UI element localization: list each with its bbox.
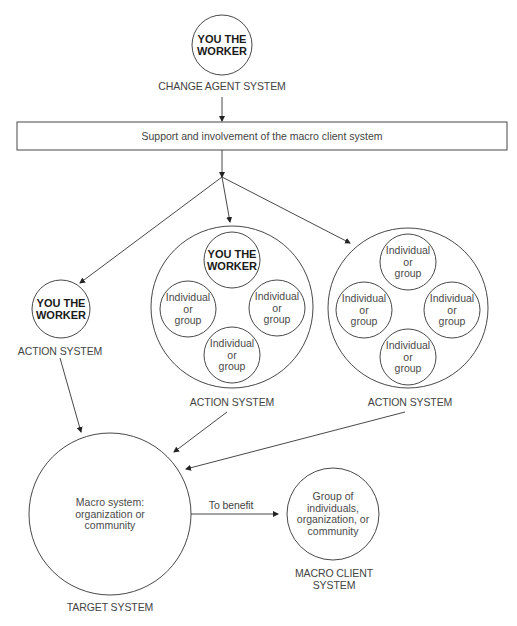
client-line: organization, or xyxy=(297,514,369,526)
arrow-action-3-to-target xyxy=(186,412,405,469)
target-line: Macro system: xyxy=(75,497,144,509)
member-line: Individual xyxy=(430,293,474,305)
arrow-action-2-to-target xyxy=(174,412,227,452)
member-line: group xyxy=(255,314,299,326)
action-system-2-label: ACTION SYSTEM xyxy=(190,396,274,408)
change-agent-line-1: YOU THE xyxy=(197,33,247,45)
action-system-1-label: ACTION SYSTEM xyxy=(18,345,102,357)
member-line: WORKER xyxy=(36,309,86,321)
action-system-2-member-top-text: YOU THE WORKER xyxy=(207,248,257,272)
action-system-3-member-right-text: Individual or group xyxy=(430,293,474,328)
member-line: group xyxy=(386,363,430,375)
member-line: group xyxy=(210,361,254,373)
member-line: Individual xyxy=(255,291,299,303)
action-system-3-member-bottom-text: Individual or group xyxy=(386,340,430,375)
change-agent-label: CHANGE AGENT SYSTEM xyxy=(158,80,285,92)
action-system-2-member-right-text: Individual or group xyxy=(255,291,299,326)
member-line: YOU THE xyxy=(36,297,86,309)
member-line: YOU THE xyxy=(207,248,257,260)
action-system-3-label: ACTION SYSTEM xyxy=(368,396,452,408)
member-line: Individual xyxy=(386,340,430,352)
client-line: Group of xyxy=(297,491,369,503)
client-label-line: MACRO CLIENT xyxy=(295,567,373,579)
action-system-1-member: YOU THE WORKER xyxy=(36,297,86,321)
macro-client-label: MACRO CLIENT SYSTEM xyxy=(295,567,373,591)
macro-client-text: Group of individuals, organization, or c… xyxy=(297,491,369,537)
member-line: Individual xyxy=(342,293,386,305)
target-line: community xyxy=(75,520,144,532)
action-system-2-member-left-text: Individual or group xyxy=(166,292,210,327)
arrow-branch-to-action-1 xyxy=(80,177,222,283)
client-label-line: SYSTEM xyxy=(295,579,373,591)
member-line: group xyxy=(342,316,386,328)
target-system-label: TARGET SYSTEM xyxy=(67,601,153,613)
member-line: Individual xyxy=(210,338,254,350)
change-agent-text: YOU THE WORKER xyxy=(197,33,247,57)
client-line: community xyxy=(297,526,369,538)
support-box-text: Support and involvement of the macro cli… xyxy=(17,122,507,150)
benefit-arrow-label: To benefit xyxy=(209,499,254,511)
action-system-3-member-top-text: Individual or group xyxy=(386,245,430,280)
target-system-text: Macro system: organization or community xyxy=(75,497,144,532)
member-line: Individual xyxy=(386,245,430,257)
member-line: group xyxy=(430,316,474,328)
action-system-3-member-left-text: Individual or group xyxy=(342,293,386,328)
member-line: group xyxy=(386,268,430,280)
member-line: group xyxy=(166,315,210,327)
action-system-2-member-bottom-text: Individual or group xyxy=(210,338,254,373)
change-agent-line-2: WORKER xyxy=(197,45,247,57)
member-line: WORKER xyxy=(207,260,257,272)
arrow-action-1-to-target xyxy=(60,358,81,432)
member-line: Individual xyxy=(166,292,210,304)
arrow-branch-to-action-2 xyxy=(222,177,230,222)
